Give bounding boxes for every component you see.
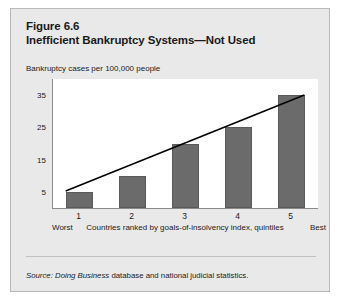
bar-quintile-2 [119, 176, 147, 208]
bars-layer [53, 79, 318, 208]
x-tick-label-3: 3 [182, 211, 187, 221]
bar-quintile-4 [225, 127, 253, 208]
source-note: Source: Doing Business database and nati… [26, 271, 248, 280]
y-tick-label: 35 [37, 91, 46, 100]
x-tick-label-5: 5 [288, 211, 293, 221]
x-axis-title: Countries ranked by goals-of-insolvency … [52, 223, 318, 232]
x-axis-tick-labels: 1 2 3 4 5 Worst Best [52, 210, 318, 224]
bar-quintile-3 [172, 144, 200, 209]
figure-header: Figure 6.6 Inefficient Bankruptcy System… [26, 19, 319, 47]
source-rest: database and national judicial statistic… [109, 271, 248, 280]
y-tick-label: 5 [42, 187, 46, 196]
y-tick-label: 15 [37, 155, 46, 164]
bar-quintile-5 [278, 95, 306, 208]
figure-number: Figure 6.6 [26, 19, 319, 33]
figure-title: Inefficient Bankruptcy Systems—Not Used [26, 33, 319, 47]
source-label: Source: [26, 271, 53, 280]
plot-area [52, 79, 318, 209]
footer-divider [26, 256, 316, 257]
y-tick-label: 25 [37, 123, 46, 132]
figure-panel: Figure 6.6 Inefficient Bankruptcy System… [10, 8, 330, 292]
chart-plot-wrapper: 35 25 15 5 1 2 3 4 5 Worst Best [26, 79, 318, 231]
x-tick-label-4: 4 [235, 211, 240, 221]
x-tick-label-2: 2 [129, 211, 134, 221]
figure-subtitle: Bankruptcy cases per 100,000 people [26, 64, 160, 73]
source-publication: Doing Business [55, 271, 109, 280]
bar-quintile-1 [66, 192, 94, 208]
x-tick-label-1: 1 [76, 211, 81, 221]
y-axis-tick-labels: 35 25 15 5 [26, 79, 48, 209]
